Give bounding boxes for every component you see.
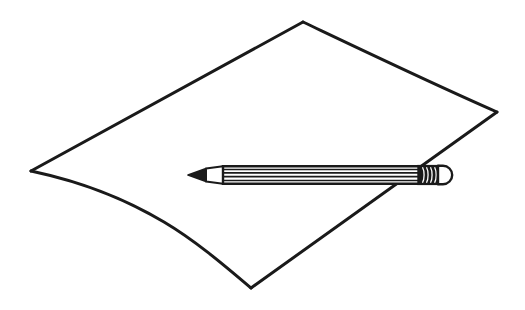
- wood-cone: [206, 166, 223, 183]
- pencil: [188, 166, 453, 185]
- pencil-eraser: [438, 166, 452, 184]
- line-drawing-svg: [0, 0, 525, 310]
- drawing-canvas: Pencil resting on a sheet of paper: [0, 0, 525, 310]
